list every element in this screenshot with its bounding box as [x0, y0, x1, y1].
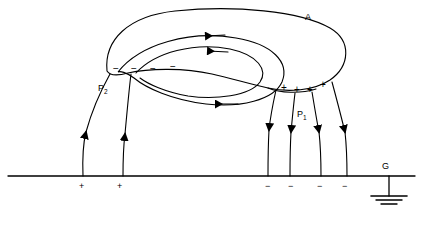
- ground-charge-positive: +: [79, 182, 84, 191]
- field-line-right-4: [332, 82, 345, 132]
- point-label-p2-sub: 2: [104, 88, 108, 95]
- field-line-left-1: [83, 132, 86, 176]
- cloud-charge-negative: −: [150, 64, 156, 74]
- field-line-right-3b: [319, 132, 321, 176]
- inner-loop-arrow-top-2: [208, 51, 228, 52]
- point-label-p1: P1: [297, 110, 307, 121]
- ground-charge-negative: −: [288, 182, 293, 191]
- field-line-right-1b: [268, 130, 269, 176]
- ground-charge-negative: −: [265, 182, 270, 191]
- ground-charge-positive: +: [117, 182, 122, 191]
- cloud-charge-positive: +: [281, 83, 287, 93]
- point-label-p2: P2: [98, 84, 108, 95]
- diagram-svg: [0, 0, 426, 226]
- field-line-right-1: [269, 90, 276, 130]
- ground-charge-negative: −: [317, 182, 322, 191]
- point-label-p1-sub: 1: [303, 114, 307, 121]
- cloud-charge-negative: −: [113, 64, 119, 74]
- cloud-charge-negative: −: [170, 62, 176, 72]
- field-line-right-4b: [345, 132, 347, 176]
- field-line-left-2: [123, 134, 125, 176]
- field-line-right-3: [312, 92, 319, 132]
- cloud-charge-positive: +: [307, 85, 313, 95]
- ground-label-G: G: [382, 162, 389, 171]
- ground-charge-negative: −: [342, 182, 347, 191]
- cloud-label-A: A: [305, 13, 311, 22]
- cloud-charge-positive: +: [320, 80, 326, 90]
- cloud-charge-positive: +: [294, 85, 300, 95]
- field-line-left-2b: [125, 74, 131, 134]
- field-line-right-2b: [290, 132, 291, 176]
- cloud-charge-negative: −: [131, 64, 137, 74]
- field-line-right-2: [291, 93, 295, 132]
- figure-canvas: A G P2 P1 − − − − + + + + + + − − − −: [0, 0, 426, 226]
